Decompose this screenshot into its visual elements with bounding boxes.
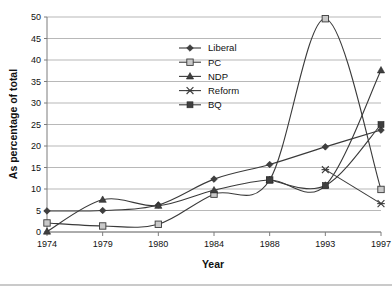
legend-label: PC: [208, 57, 221, 68]
legend-label: Liberal: [208, 42, 237, 53]
legend-label: BQ: [208, 99, 222, 110]
y-tick-label: 15: [31, 163, 41, 173]
data-point-bq: [378, 122, 384, 128]
y-tick-label: 35: [31, 77, 41, 87]
x-tick-label: 1988: [260, 239, 280, 249]
y-tick-label: 25: [31, 120, 41, 130]
legend-marker-filled-square: [187, 102, 193, 108]
y-axis-title: As percentage of total: [7, 69, 19, 179]
data-point-pc: [44, 220, 50, 226]
x-axis-title: Year: [202, 258, 224, 270]
y-tick-label: 50: [31, 12, 41, 22]
y-tick-label: 0: [36, 227, 41, 237]
data-point-bq: [322, 183, 328, 189]
x-tick-label: 1984: [204, 239, 224, 249]
x-tick-label: 1980: [148, 239, 168, 249]
x-tick-label: 1993: [315, 239, 335, 249]
data-point-pc: [99, 223, 105, 229]
legend-label: Reform: [208, 85, 239, 96]
y-tick-label: 30: [31, 98, 41, 108]
x-tick-label: 1974: [37, 239, 57, 249]
legend-marker-open-square: [187, 59, 193, 65]
y-tick-label: 40: [31, 55, 41, 65]
y-tick-label: 20: [31, 141, 41, 151]
y-tick-label: 10: [31, 184, 41, 194]
y-tick-label: 45: [31, 34, 41, 44]
y-tick-label: 5: [36, 206, 41, 216]
data-point-pc: [378, 186, 384, 192]
data-point-bq: [267, 177, 273, 183]
data-point-pc: [155, 221, 161, 227]
x-tick-label: 1997: [371, 239, 391, 249]
legend-label: NDP: [208, 71, 228, 82]
line-chart: 05101520253035404550 1974197919801984198…: [0, 0, 392, 291]
x-tick-label: 1979: [93, 239, 113, 249]
data-point-pc: [322, 16, 328, 22]
